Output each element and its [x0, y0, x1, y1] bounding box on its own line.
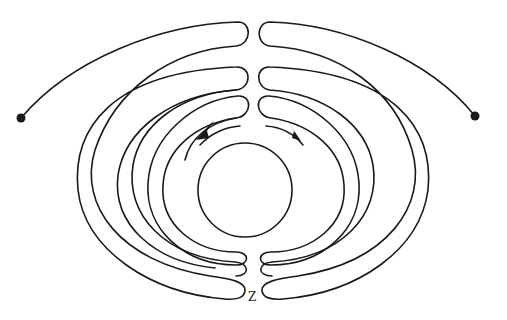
left-lane-2 [117, 90, 236, 268]
labyrinth-diagram: Z [0, 0, 507, 320]
inner-arc-right [266, 126, 303, 145]
gap-label-z: Z [248, 290, 256, 304]
center-circle [198, 143, 292, 237]
right-outer-lane [259, 22, 475, 299]
left-outer-lane [21, 22, 248, 299]
arrow-right-icon [286, 119, 301, 141]
diagram-canvas [0, 0, 507, 320]
right-lane-3 [258, 96, 359, 265]
